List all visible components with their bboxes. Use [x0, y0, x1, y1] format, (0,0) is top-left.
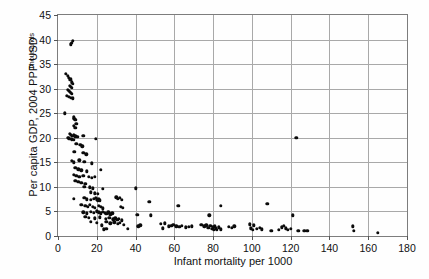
x-axis-tick-label: 100 — [243, 242, 261, 254]
y-axis-tick-label: 35 — [39, 58, 51, 70]
data-point — [74, 118, 77, 121]
data-point — [122, 223, 125, 226]
data-point — [90, 162, 93, 165]
x-axis-tick — [97, 236, 98, 240]
data-point — [82, 185, 85, 188]
x-axis-tick-label: 60 — [168, 242, 180, 254]
data-point — [180, 224, 183, 227]
data-point — [74, 126, 77, 129]
y-axis-tick-label: 25 — [39, 107, 51, 119]
data-point — [82, 174, 85, 177]
data-point — [108, 216, 111, 219]
x-axis-tick — [58, 236, 59, 240]
data-point — [139, 223, 142, 226]
data-point — [159, 222, 162, 225]
data-point — [101, 187, 104, 190]
data-point — [215, 228, 218, 231]
gridline-horizontal — [58, 187, 407, 188]
x-axis-tick-label: 0 — [55, 242, 61, 254]
y-axis-tick — [54, 40, 58, 41]
data-point — [70, 92, 73, 95]
data-point — [87, 216, 90, 219]
x-axis-tick — [213, 236, 214, 240]
data-point — [113, 221, 116, 224]
y-axis-tick-label: 40 — [39, 34, 51, 46]
data-point — [71, 39, 74, 42]
x-axis-tick-label: 160 — [359, 242, 377, 254]
data-point — [75, 142, 78, 145]
y-axis-tick-label: 20 — [39, 132, 51, 144]
data-point — [351, 224, 354, 227]
x-axis-tick — [136, 236, 137, 240]
data-point — [163, 222, 166, 225]
data-point — [98, 198, 101, 201]
x-axis-tick — [174, 236, 175, 240]
gridline-vertical — [97, 15, 98, 236]
data-point — [84, 153, 87, 156]
data-point — [376, 231, 379, 234]
gridline-vertical — [136, 15, 137, 236]
data-point — [91, 187, 94, 190]
gridline-vertical — [174, 15, 175, 236]
data-point — [136, 213, 139, 216]
data-point — [134, 187, 137, 190]
x-axis-tick-label: 80 — [207, 242, 219, 254]
y-axis-tick — [54, 89, 58, 90]
x-axis-tick — [252, 236, 253, 240]
data-point — [126, 227, 129, 230]
gridline-horizontal — [58, 138, 407, 139]
x-axis-tick-label: 20 — [91, 242, 103, 254]
data-point — [78, 175, 81, 178]
data-point — [80, 181, 83, 184]
y-axis-tick — [54, 15, 58, 16]
plot-area: 0510152025303540450204060801001201401601… — [57, 14, 408, 237]
gridline-horizontal — [58, 40, 407, 41]
data-point — [289, 227, 292, 230]
data-point — [80, 168, 83, 171]
y-axis-tick-label: 10 — [39, 181, 51, 193]
y-axis-tick-label: 45 — [39, 9, 51, 21]
data-point — [233, 224, 236, 227]
data-point — [147, 200, 150, 203]
gridline-vertical — [291, 15, 292, 236]
x-axis-tick — [407, 236, 408, 240]
y-axis-tick-label: 15 — [39, 156, 51, 168]
data-point — [305, 229, 308, 232]
data-point — [149, 214, 152, 217]
data-point — [111, 212, 114, 215]
data-point — [71, 97, 74, 100]
x-axis-tick-label: 180 — [398, 242, 416, 254]
y-axis-tick-label: 30 — [39, 83, 51, 95]
data-point — [109, 222, 112, 225]
data-point — [352, 229, 355, 232]
data-point — [96, 192, 99, 195]
gridline-vertical — [252, 15, 253, 236]
data-point — [260, 227, 263, 230]
gridline-horizontal — [58, 64, 407, 65]
data-point — [251, 228, 254, 231]
data-point — [161, 226, 164, 229]
data-point — [82, 211, 85, 214]
gridline-horizontal — [58, 113, 407, 114]
data-point — [98, 216, 101, 219]
data-point — [102, 227, 105, 230]
data-point — [219, 227, 222, 230]
data-point — [85, 197, 88, 200]
data-point — [177, 204, 180, 207]
y-axis-tick — [54, 113, 58, 114]
x-axis-tick-label: 40 — [130, 242, 142, 254]
data-point — [63, 112, 66, 115]
gridline-horizontal — [58, 89, 407, 90]
data-point — [266, 202, 269, 205]
data-point — [291, 214, 294, 217]
y-axis-tick — [54, 211, 58, 212]
y-axis-tick — [54, 64, 58, 65]
y-axis-tick — [54, 162, 58, 163]
data-point — [72, 138, 75, 141]
data-point — [85, 169, 88, 172]
data-point — [105, 220, 108, 223]
data-point — [95, 221, 98, 224]
scatter-chart-figure: Per capita GDP, 2004 PPP USD Thousands 0… — [0, 0, 429, 279]
x-axis-tick — [329, 236, 330, 240]
data-point — [295, 136, 298, 139]
